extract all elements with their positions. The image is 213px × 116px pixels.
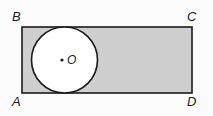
figure-canvas [0,0,213,116]
vertex-label-A: A [12,95,21,108]
geometry-figure: B C A D O [0,0,213,116]
inscribed-circle [32,27,98,93]
vertex-label-D: D [187,95,196,108]
circle-center-dot [60,58,63,61]
vertex-label-C: C [187,10,196,23]
vertex-label-B: B [12,10,21,23]
circle-center-label-O: O [67,54,76,66]
